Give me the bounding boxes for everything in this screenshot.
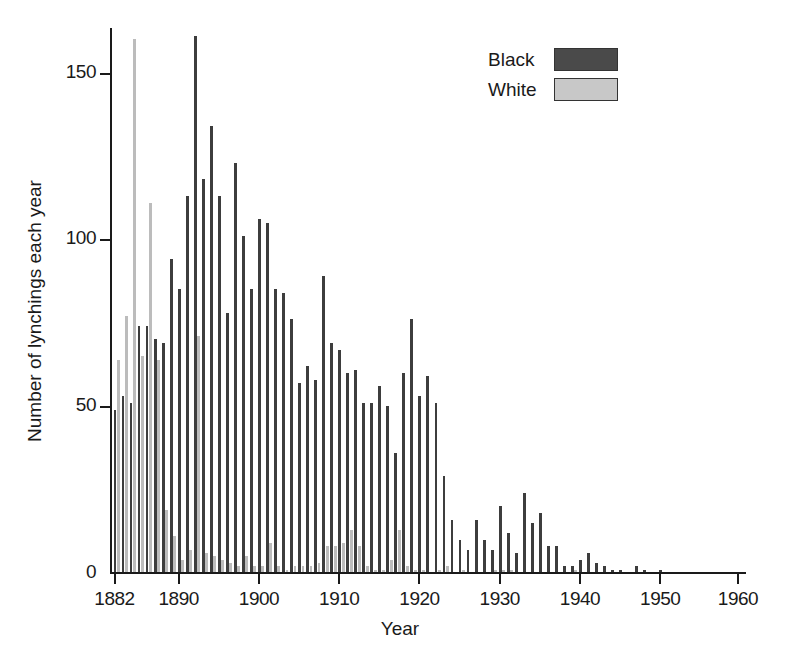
y-tick-label: 0 (36, 561, 96, 583)
year-group (298, 28, 306, 573)
bar-white (205, 553, 208, 573)
year-group (579, 28, 587, 573)
year-group (587, 28, 595, 573)
bar-black (579, 560, 582, 573)
bar-white (326, 546, 329, 573)
year-group (435, 28, 443, 573)
legend-item-white: White (488, 76, 678, 103)
bar-white (165, 510, 168, 573)
bar-white (269, 543, 272, 573)
x-tick-label: 1920 (389, 588, 449, 610)
year-group (154, 28, 162, 573)
year-group (146, 28, 154, 573)
bar-black (475, 520, 478, 573)
bar-black (459, 540, 462, 573)
bar-black (491, 550, 494, 573)
bar-black (282, 293, 285, 573)
year-group (451, 28, 459, 573)
year-group (202, 28, 210, 573)
x-tick (258, 574, 260, 584)
year-group (531, 28, 539, 573)
bar-black (322, 276, 325, 573)
bar-white (141, 356, 144, 573)
year-group (555, 28, 563, 573)
bar-black (234, 163, 237, 573)
x-axis-title: Year (0, 618, 800, 640)
year-group (338, 28, 346, 573)
bar-black (218, 196, 221, 573)
bar-white (342, 543, 345, 573)
x-tick (338, 574, 340, 584)
year-group (611, 28, 619, 573)
bar-black (346, 373, 349, 573)
year-group (178, 28, 186, 573)
bar-black (274, 289, 277, 573)
bar-black (258, 219, 261, 573)
bar-series-container (112, 28, 746, 573)
year-group (699, 28, 707, 573)
year-group (266, 28, 274, 573)
year-group (162, 28, 170, 573)
year-group (114, 28, 122, 573)
y-tick (100, 239, 111, 241)
plot-area (112, 28, 746, 573)
bar-white (221, 560, 224, 573)
bar-white (213, 556, 216, 573)
year-group (443, 28, 451, 573)
x-tick-label: 1900 (229, 588, 289, 610)
year-group (459, 28, 467, 573)
bar-black (242, 236, 245, 573)
bar-black (306, 366, 309, 573)
bar-black (290, 319, 293, 573)
bar-white (350, 530, 353, 573)
x-tick (114, 574, 116, 584)
year-group (603, 28, 611, 573)
legend-item-black: Black (488, 46, 678, 73)
bar-white (398, 530, 401, 573)
year-group (491, 28, 499, 573)
year-group (234, 28, 242, 573)
bar-black (499, 506, 502, 573)
bar-black (202, 179, 205, 573)
year-group (314, 28, 322, 573)
year-group (571, 28, 579, 573)
bar-white (157, 360, 160, 574)
bar-black (515, 553, 518, 573)
year-group (354, 28, 362, 573)
bar-black (451, 520, 454, 573)
bar-white (245, 556, 248, 573)
x-tick (579, 574, 581, 584)
year-group (467, 28, 475, 573)
x-tick (178, 574, 180, 584)
year-group (290, 28, 298, 573)
bar-black (507, 533, 510, 573)
bar-black (170, 259, 173, 573)
bar-black (146, 326, 149, 573)
legend-swatch-black (554, 48, 618, 71)
bar-black (250, 289, 253, 573)
bar-black (402, 373, 405, 573)
bar-black (122, 396, 125, 573)
year-group (386, 28, 394, 573)
bar-black (587, 553, 590, 573)
bar-black (354, 370, 357, 573)
year-group (595, 28, 603, 573)
year-group (523, 28, 531, 573)
year-group (499, 28, 507, 573)
year-group (667, 28, 675, 573)
bar-black (162, 343, 165, 573)
bar-black (426, 376, 429, 573)
x-tick-label: 1950 (630, 588, 690, 610)
bar-black (418, 396, 421, 573)
bar-black (138, 326, 141, 573)
year-group (186, 28, 194, 573)
year-group (274, 28, 282, 573)
year-group (619, 28, 627, 573)
year-group (242, 28, 250, 573)
x-tick-label: 1930 (470, 588, 530, 610)
bar-black (555, 546, 558, 573)
year-group (122, 28, 130, 573)
bar-black (114, 410, 117, 573)
x-tick (418, 574, 420, 584)
bar-black (210, 126, 213, 573)
